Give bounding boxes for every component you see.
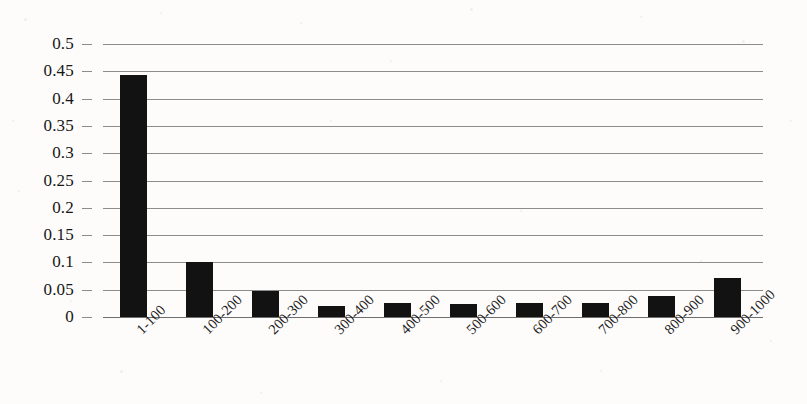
- y-axis-tick-mark: [82, 153, 92, 154]
- y-axis-tick-label: 0.4: [52, 90, 74, 107]
- y-axis-tick-mark: [82, 317, 92, 318]
- y-axis-tick-mark: [82, 44, 92, 45]
- bar: [186, 262, 213, 317]
- y-axis-tick-label: 0: [65, 308, 74, 325]
- scan-speckle: [12, 120, 14, 122]
- y-axis-tick-label: 0.2: [52, 199, 74, 216]
- bar: [252, 291, 279, 317]
- y-axis-tick-label: 0.5: [52, 35, 74, 52]
- bar-chart: 0.50.450.40.350.30.250.20.150.10.050 1-1…: [0, 0, 807, 404]
- scan-speckle: [742, 40, 745, 43]
- scan-speckle: [560, 300, 562, 302]
- y-axis-tick-mark: [82, 126, 92, 127]
- y-axis-tick-label: 0.3: [52, 144, 74, 161]
- scan-speckle: [70, 300, 72, 302]
- scan-speckle: [24, 18, 27, 21]
- y-axis-tick-label: 0.45: [43, 62, 74, 79]
- x-axis-tick-labels: 1-100100-200200-300300-400400-500500-600…: [103, 320, 763, 404]
- y-axis-tick-mark: [82, 262, 92, 263]
- bars-layer: [103, 44, 763, 317]
- y-axis-tick-mark: [82, 208, 92, 209]
- y-axis-tick-mark: [82, 181, 92, 182]
- y-axis-tick-mark: [82, 290, 92, 291]
- y-axis-tick-label: 0.05: [43, 281, 74, 298]
- scan-speckle: [120, 370, 123, 373]
- y-axis-tick-label: 0.25: [43, 172, 74, 189]
- scan-speckle: [18, 190, 20, 192]
- bar: [648, 296, 675, 317]
- scan-speckle: [790, 120, 792, 122]
- y-axis-tick-mark: [82, 99, 92, 100]
- scan-speckle: [640, 16, 642, 18]
- scan-speckle: [520, 210, 522, 212]
- y-axis-tick-mark: [82, 235, 92, 236]
- y-axis-tick-label: 0.1: [52, 253, 74, 270]
- scan-speckle: [700, 260, 702, 262]
- scan-speckle: [770, 340, 772, 342]
- gridline: [103, 317, 763, 318]
- y-axis-tick-labels: 0.50.450.40.350.30.250.20.150.10.050: [0, 44, 92, 317]
- scan-speckle: [260, 392, 262, 394]
- bar: [714, 278, 741, 317]
- y-axis-tick-label: 0.15: [43, 226, 74, 243]
- scan-speckle: [440, 380, 442, 382]
- scan-speckle: [600, 370, 602, 372]
- scan-speckle: [300, 22, 302, 24]
- scan-speckle: [390, 60, 392, 62]
- bar: [120, 75, 147, 317]
- y-axis-tick-label: 0.35: [43, 117, 74, 134]
- scan-speckle: [470, 8, 473, 11]
- scan-speckle: [330, 120, 332, 122]
- y-axis-tick-mark: [82, 71, 92, 72]
- scan-speckle: [160, 12, 162, 14]
